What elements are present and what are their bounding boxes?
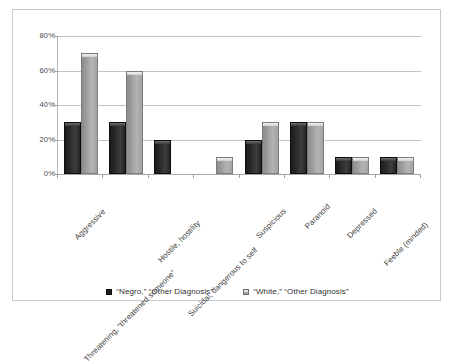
bar bbox=[64, 122, 81, 174]
bar bbox=[335, 157, 352, 174]
bar-group bbox=[330, 36, 375, 174]
legend-label: “Negro,” “Other Diagnosis” bbox=[116, 287, 213, 296]
x-axis-category-label: Aggressive bbox=[73, 208, 107, 242]
legend-label: “White,” “Other Diagnosis” bbox=[253, 287, 349, 296]
bar-top-cap bbox=[291, 123, 306, 126]
bar-top-cap bbox=[65, 123, 80, 126]
y-axis-tick-label: 40% bbox=[40, 101, 56, 109]
bar-group bbox=[284, 36, 329, 174]
bar bbox=[245, 140, 262, 175]
bar bbox=[380, 157, 397, 174]
legend-item[interactable]: “Negro,” “Other Diagnosis” bbox=[106, 287, 213, 296]
bar-group bbox=[375, 36, 420, 174]
bar-top-cap bbox=[381, 158, 396, 161]
plot-wrapper: 0%20%40%60%80% AggressiveThreatening, “t… bbox=[13, 10, 440, 300]
bar bbox=[126, 71, 143, 175]
x-axis-category-label: Suicidal, dangerous to self bbox=[187, 246, 259, 318]
bar-top-cap bbox=[308, 123, 323, 126]
chart-legend: “Negro,” “Other Diagnosis”“White,” “Othe… bbox=[13, 287, 442, 296]
x-axis-category-label: Feeble (minded) bbox=[383, 221, 430, 268]
y-axis-tick-label: 20% bbox=[40, 136, 56, 144]
bar-group bbox=[103, 36, 148, 174]
x-axis-labels: AggressiveThreatening, “threatened someo… bbox=[13, 178, 442, 278]
bar bbox=[109, 122, 126, 174]
y-axis-tick-label: 60% bbox=[40, 67, 56, 75]
x-axis-category-label: Paranoid bbox=[303, 203, 331, 231]
legend-item[interactable]: “White,” “Other Diagnosis” bbox=[243, 287, 349, 296]
bar-top-cap bbox=[82, 54, 97, 57]
bar-top-cap bbox=[263, 123, 278, 126]
bar-top-cap bbox=[246, 141, 261, 144]
bar-top-cap bbox=[155, 141, 170, 144]
bar bbox=[397, 157, 414, 174]
bar-top-cap bbox=[110, 123, 125, 126]
y-axis-tick-label: 80% bbox=[40, 32, 56, 40]
x-axis-category-label: Depressed bbox=[346, 207, 379, 240]
y-axis-labels: 0%20%40%60%80% bbox=[21, 36, 55, 174]
bar-top-cap bbox=[127, 72, 142, 75]
bar bbox=[262, 122, 279, 174]
bar-group bbox=[239, 36, 284, 174]
bar-group bbox=[194, 36, 239, 174]
x-axis-category-label: Threatening, “threatened someone” bbox=[83, 269, 178, 364]
bar-top-cap bbox=[398, 158, 413, 161]
bar bbox=[290, 122, 307, 174]
bar-group bbox=[58, 36, 103, 174]
bar-top-cap bbox=[217, 158, 232, 161]
x-axis-category-label: Suspicious bbox=[255, 207, 288, 240]
bar bbox=[216, 157, 233, 174]
bar bbox=[154, 140, 171, 175]
bars-layer bbox=[58, 36, 420, 174]
x-axis-category-label: Hostile, hostility bbox=[157, 219, 202, 264]
bar bbox=[307, 122, 324, 174]
chart-frame: 0%20%40%60%80% AggressiveThreatening, “t… bbox=[12, 9, 441, 301]
bar-top-cap bbox=[353, 158, 368, 161]
bar-group bbox=[149, 36, 194, 174]
legend-swatch-icon bbox=[243, 289, 249, 295]
bar-top-cap bbox=[336, 158, 351, 161]
bar bbox=[81, 53, 98, 174]
legend-swatch-icon bbox=[106, 289, 112, 295]
bar bbox=[352, 157, 369, 174]
plot-area bbox=[57, 36, 420, 174]
